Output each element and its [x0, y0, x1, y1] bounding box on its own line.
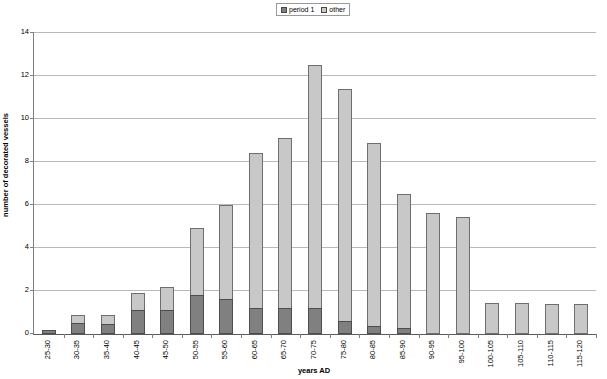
bar-segment-other[interactable] [160, 287, 174, 311]
x-axis-tick [182, 334, 183, 338]
bar-segment-other[interactable] [249, 153, 263, 308]
x-axis-tick-label: 35-40 [103, 340, 111, 359]
bar-segment-other[interactable] [101, 315, 115, 325]
x-axis-tick-label: 100-105 [487, 340, 495, 368]
x-axis-tick [123, 334, 124, 338]
bar-segment-other[interactable] [485, 303, 499, 334]
bar-segment-other[interactable] [574, 304, 588, 334]
bar-segment-period-1[interactable] [338, 321, 352, 334]
stacked-bar[interactable] [71, 315, 85, 334]
x-axis-tick-label: 105-110 [517, 340, 525, 367]
bar-slot [389, 33, 419, 334]
stacked-bar[interactable] [219, 205, 233, 334]
x-axis-tick-label: 60-65 [251, 340, 259, 359]
bar-segment-period-1[interactable] [249, 308, 263, 334]
x-axis-tick-label: 70-75 [310, 340, 318, 359]
x-axis-tick-label: 40-45 [133, 340, 141, 359]
x-axis-tick [241, 334, 242, 338]
bar-slot [241, 33, 271, 334]
bar-slot [34, 33, 64, 334]
x-axis-tick [211, 334, 212, 338]
bar-segment-other[interactable] [426, 213, 440, 334]
stacked-bar[interactable] [101, 315, 115, 334]
stacked-bar[interactable] [131, 293, 145, 334]
bar-segment-period-1[interactable] [278, 308, 292, 334]
plot-area: 02468101214 [33, 33, 596, 335]
bar-segment-other[interactable] [515, 303, 529, 334]
stacked-bar[interactable] [338, 89, 352, 334]
legend-entry-period-1: period 1 [281, 5, 314, 14]
stacked-bar[interactable] [367, 143, 381, 334]
x-axis-tick [566, 334, 567, 338]
bar-slot [566, 33, 596, 334]
bar-slot [478, 33, 508, 334]
bar-segment-other[interactable] [219, 205, 233, 299]
stacked-bar[interactable] [397, 194, 411, 334]
x-axis-tick-label: 95-100 [458, 340, 466, 363]
bar-segment-period-1[interactable] [160, 310, 174, 334]
x-axis-tick-label: 90-95 [428, 340, 436, 359]
bar-segment-other[interactable] [71, 315, 85, 324]
bar-slot [359, 33, 389, 334]
bar-segment-period-1[interactable] [131, 310, 145, 334]
bar-slot [448, 33, 478, 334]
bar-segment-period-1[interactable] [42, 330, 56, 334]
x-axis-tick-label: 45-50 [162, 340, 170, 359]
stacked-bar[interactable] [515, 303, 529, 334]
y-axis-tick-label: 0 [10, 329, 29, 337]
y-axis-tick-label: 6 [10, 200, 29, 208]
stacked-bar[interactable] [160, 287, 174, 334]
bar-segment-other[interactable] [367, 143, 381, 327]
x-axis-tick-label: 85-90 [399, 340, 407, 359]
x-axis-tick [537, 334, 538, 338]
legend-label-period-1: period 1 [289, 5, 314, 14]
stacked-bar[interactable] [574, 304, 588, 334]
bar-segment-period-1[interactable] [367, 326, 381, 334]
bar-segment-period-1[interactable] [101, 324, 115, 334]
stacked-bar[interactable] [426, 213, 440, 334]
x-axis-tick-label: 55-60 [221, 340, 229, 359]
bar-segment-period-1[interactable] [397, 328, 411, 334]
bar-segment-other[interactable] [131, 293, 145, 310]
bar-segment-other[interactable] [397, 194, 411, 327]
x-axis-tick-label: 75-80 [340, 340, 348, 359]
stacked-bar[interactable] [308, 65, 322, 334]
bar-segment-other[interactable] [278, 138, 292, 308]
bar-slot [419, 33, 449, 334]
x-axis-tick [271, 334, 272, 338]
bar-slot [507, 33, 537, 334]
x-axis-tick [359, 334, 360, 338]
bar-slot [537, 33, 567, 334]
stacked-bar[interactable] [42, 330, 56, 334]
x-axis-tick-label: 80-85 [369, 340, 377, 359]
bar-slot [330, 33, 360, 334]
stacked-bar[interactable] [249, 153, 263, 334]
bar-slot [300, 33, 330, 334]
bar-segment-other[interactable] [545, 304, 559, 334]
bar-slot [123, 33, 153, 334]
bar-segment-other[interactable] [338, 89, 352, 321]
stacked-bar[interactable] [545, 304, 559, 334]
bar-slot [152, 33, 182, 334]
bar-segment-period-1[interactable] [308, 308, 322, 334]
x-axis-tick [507, 334, 508, 338]
x-axis-tick-label: 110-115 [547, 340, 555, 366]
x-axis-tick [152, 334, 153, 338]
x-axis-tick [478, 334, 479, 338]
bar-slot [211, 33, 241, 334]
bar-segment-other[interactable] [456, 217, 470, 334]
bar-segment-other[interactable] [308, 65, 322, 308]
stacked-bar[interactable] [190, 228, 204, 334]
x-axis-tick-label: 30-35 [73, 340, 81, 359]
bar-segment-period-1[interactable] [190, 295, 204, 334]
bar-segment-period-1[interactable] [219, 299, 233, 334]
y-axis-tick-label: 14 [10, 28, 29, 36]
bar-slot [182, 33, 212, 334]
legend-entry-other: other [321, 5, 345, 14]
bar-segment-period-1[interactable] [71, 323, 85, 334]
x-axis-tick [596, 334, 597, 338]
stacked-bar[interactable] [278, 138, 292, 334]
bar-segment-other[interactable] [190, 228, 204, 296]
stacked-bar[interactable] [456, 217, 470, 334]
stacked-bar[interactable] [485, 303, 499, 334]
